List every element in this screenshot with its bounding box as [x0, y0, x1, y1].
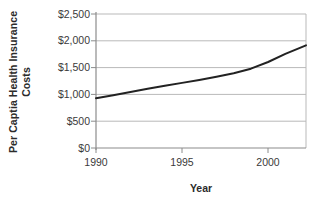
x-tick-label-1990: 1990 [66, 157, 126, 168]
chart-container: Per Captia Health Insurance Costs $2,500… [0, 0, 321, 204]
x-tick-label-1995: 1995 [152, 157, 212, 168]
x-tick-label-2000: 2000 [238, 157, 298, 168]
x-axis-title: Year [96, 182, 306, 194]
x-tick-labels: 1990 1995 2000 [0, 0, 321, 204]
